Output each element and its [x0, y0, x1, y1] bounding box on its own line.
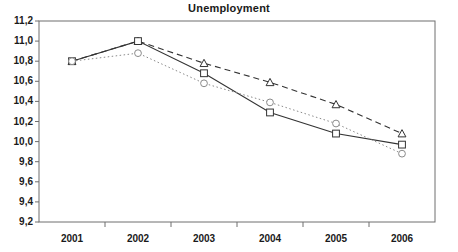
y-tick-label-10,0: 10,0	[1, 137, 33, 147]
data-point-circle-2006	[399, 150, 406, 157]
x-tick-label-2004: 2004	[240, 233, 300, 244]
y-tick-label-9,4: 9,4	[1, 197, 33, 207]
x-tick-label-2006: 2006	[372, 233, 432, 244]
y-tick-label-10,4: 10,4	[1, 96, 33, 106]
series-circle	[69, 50, 406, 157]
y-tick-label-11,2: 11,2	[1, 16, 33, 26]
y-tick-label-9,8: 9,8	[1, 157, 33, 167]
data-point-circle-2002	[135, 50, 142, 57]
y-tick-label-9,6: 9,6	[1, 177, 33, 187]
x-tick-label-2001: 2001	[42, 233, 102, 244]
chart-plot-area	[0, 0, 458, 252]
y-tick-label-9,2: 9,2	[1, 217, 33, 227]
chart-screenshot: Unemployment 11,211,010,810,610,410,210,…	[0, 0, 458, 252]
series-triangle	[68, 37, 406, 137]
data-point-square-2003	[201, 70, 208, 77]
data-point-triangle-2005	[332, 101, 340, 108]
data-point-circle-2001	[69, 58, 76, 65]
data-point-square-2005	[333, 130, 340, 137]
x-tick-label-2005: 2005	[306, 233, 366, 244]
data-point-circle-2005	[333, 120, 340, 127]
series-line-triangle	[72, 41, 402, 133]
data-point-square-2002	[135, 38, 142, 45]
y-tick-label-11,0: 11,0	[1, 36, 33, 46]
data-point-circle-2003	[201, 80, 208, 87]
data-point-circle-2004	[267, 99, 274, 106]
series-line-circle	[72, 53, 402, 154]
data-point-square-2004	[267, 109, 274, 116]
y-tick-label-10,2: 10,2	[1, 117, 33, 127]
y-tick-label-10,8: 10,8	[1, 56, 33, 66]
y-tick-label-10,6: 10,6	[1, 76, 33, 86]
data-point-square-2006	[399, 141, 406, 148]
x-tick-label-2003: 2003	[174, 233, 234, 244]
x-tick-label-2002: 2002	[108, 233, 168, 244]
data-point-triangle-2003	[200, 59, 208, 66]
data-point-triangle-2006	[398, 130, 406, 137]
